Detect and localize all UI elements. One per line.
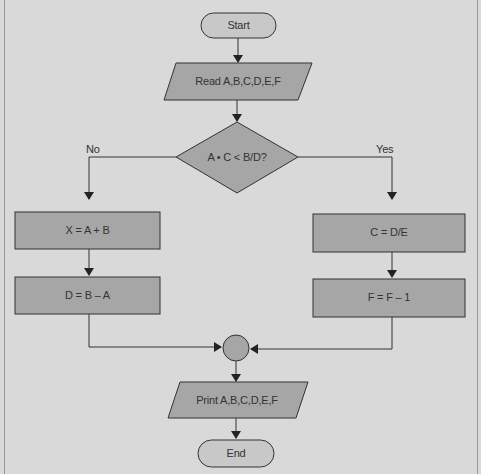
f-assign-label: F = F – 1 bbox=[313, 291, 465, 303]
start-label: Start bbox=[201, 19, 276, 31]
print-label: Print A,B,C,D,E,F bbox=[170, 394, 304, 406]
end-label: End bbox=[198, 447, 274, 459]
d-assign-label: D = B – A bbox=[15, 289, 160, 301]
yes-branch-label: Yes bbox=[376, 143, 393, 155]
edge-f-connector bbox=[251, 317, 392, 349]
no-branch-label: No bbox=[86, 143, 100, 155]
connector-circle bbox=[223, 335, 249, 361]
decision-label: A • C < B/D? bbox=[186, 151, 288, 163]
edge-decision-yes bbox=[298, 157, 392, 199]
flowchart-canvas: Start Read A,B,C,D,E,F A • C < B/D? No Y… bbox=[0, 0, 481, 474]
c-assign-label: C = D/E bbox=[313, 226, 465, 238]
edge-decision-no bbox=[89, 157, 176, 199]
read-label: Read A,B,C,D,E,F bbox=[168, 75, 308, 87]
x-assign-label: X = A + B bbox=[15, 224, 160, 236]
edge-d-connector bbox=[89, 314, 221, 347]
